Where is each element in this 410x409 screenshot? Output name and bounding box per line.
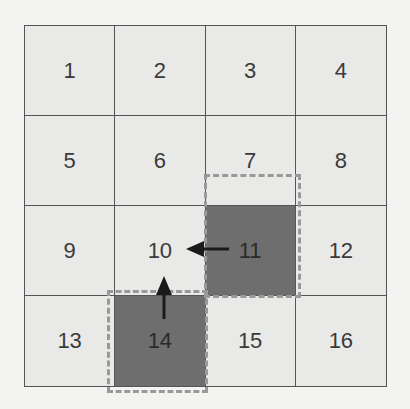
arrow-up-icon (156, 276, 172, 319)
arrow-left-icon (186, 241, 229, 257)
arrows-layer (0, 0, 410, 409)
